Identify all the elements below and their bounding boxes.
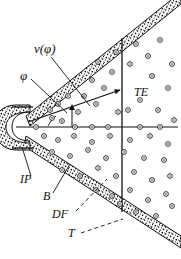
particle-core (115, 51, 117, 53)
particle-core (173, 119, 175, 121)
particle-core (61, 120, 63, 122)
particle-core (143, 157, 145, 159)
particle-core (105, 157, 107, 159)
particle-core (57, 139, 59, 141)
particle-core (91, 79, 93, 81)
particle-core (111, 195, 113, 197)
particle-core (79, 175, 81, 177)
particle-core (123, 151, 125, 153)
particle-core (61, 169, 63, 171)
leader-t (81, 219, 123, 233)
particle-core (151, 179, 153, 181)
particle-core (163, 159, 165, 161)
particle-core (77, 111, 79, 113)
particle-core (149, 135, 151, 137)
diagram-svg: v(φ) φ TE IP B DF T (0, 0, 181, 259)
particle-core (167, 143, 169, 145)
particle-core (147, 199, 149, 201)
particle-core (35, 126, 37, 128)
particle-core (155, 215, 157, 217)
particle-core (51, 151, 53, 153)
particle-core (83, 95, 85, 97)
particle-core (129, 139, 131, 141)
particle-core (74, 126, 76, 128)
particle-core (91, 126, 93, 128)
upper-shock-band (26, 0, 181, 126)
particle-core (103, 87, 105, 89)
particle-core (119, 203, 121, 205)
particle-core (111, 71, 113, 73)
label-trailing-edge: TE (134, 85, 149, 99)
particle-core (115, 175, 117, 177)
particle-core (91, 141, 93, 143)
particle-core (97, 167, 99, 169)
label-velocity: v(φ) (34, 41, 56, 56)
particle-core (159, 39, 161, 41)
particle-core (169, 175, 171, 177)
particle-core (43, 135, 45, 137)
particle-core (133, 171, 135, 173)
particle-core (147, 55, 149, 57)
label-angle: φ (20, 68, 27, 83)
particle-core (109, 135, 111, 137)
label-disturbed-flow: DF (51, 207, 69, 221)
particle-core (151, 75, 153, 77)
particle-core (97, 61, 99, 63)
particle-core (135, 211, 137, 213)
particle-core (127, 109, 129, 111)
particle-core (159, 126, 161, 128)
particle-core (107, 126, 109, 128)
particle-core (171, 205, 173, 207)
particle-core (135, 43, 137, 45)
particle-core (73, 135, 75, 137)
particle-core (117, 111, 119, 113)
particle-core (67, 95, 69, 97)
particle-core (95, 103, 97, 105)
particle-core (129, 189, 131, 191)
label-boundary: B (43, 189, 51, 203)
particle-core (69, 155, 71, 157)
particle-core (87, 149, 89, 151)
label-tail: T (68, 226, 76, 240)
particle-core (165, 193, 167, 195)
diagram-canvas: v(φ) φ TE IP B DF T (0, 0, 181, 259)
particle-core (171, 63, 173, 65)
particle-core (167, 87, 169, 89)
particle-core (51, 117, 53, 119)
particle-core (129, 63, 131, 65)
particle-core (139, 99, 141, 101)
particle-core (157, 109, 159, 111)
particle-core (139, 126, 141, 128)
label-impact-point: IP (19, 172, 32, 186)
particle-core (49, 109, 51, 111)
